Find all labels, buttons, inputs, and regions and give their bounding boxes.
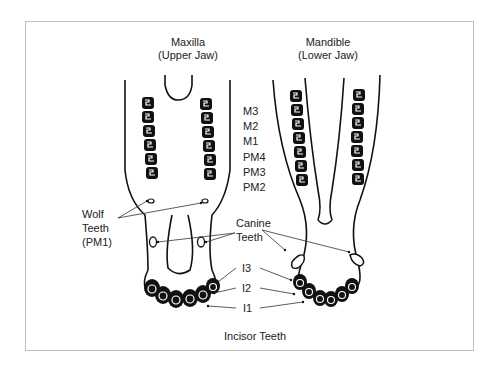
maxilla-title: Maxilla bbox=[148, 36, 228, 49]
tooth-label-pm4: PM4 bbox=[243, 150, 266, 165]
tooth-label-m3: M3 bbox=[243, 104, 266, 119]
canine-teeth-line1: Canine bbox=[236, 216, 271, 230]
maxilla-outline bbox=[125, 75, 230, 290]
incisor-teeth-caption: Incisor Teeth bbox=[224, 330, 286, 343]
mandible-subtitle: (Lower Jaw) bbox=[288, 49, 368, 62]
wolf-teeth-line3: (PM1) bbox=[82, 235, 112, 249]
maxilla-incisors bbox=[144, 278, 220, 308]
tooth-label-m2: M2 bbox=[243, 119, 266, 134]
canine-teeth-label: Canine Teeth bbox=[236, 216, 271, 244]
mandible-label: Mandible (Lower Jaw) bbox=[288, 36, 368, 62]
wolf-teeth-line2: Teeth bbox=[82, 221, 112, 235]
tooth-label-pm2: PM2 bbox=[243, 180, 266, 195]
canine-teeth-line2: Teeth bbox=[236, 230, 271, 244]
incisor-label-i1: I1 bbox=[243, 302, 252, 315]
wolf-teeth-line1: Wolf bbox=[82, 207, 112, 221]
maxilla-subtitle-text: (Upper Jaw) bbox=[148, 49, 228, 62]
mandible-molars-left bbox=[290, 90, 308, 186]
mandible-title: Mandible bbox=[288, 36, 368, 49]
mandible-canines bbox=[292, 254, 364, 268]
incisor-label-i3: I3 bbox=[242, 262, 251, 275]
wolf-teeth bbox=[148, 199, 208, 203]
maxilla-molars-left bbox=[142, 97, 158, 179]
tooth-label-pm3: PM3 bbox=[243, 165, 266, 180]
maxilla-molars-right bbox=[200, 98, 216, 180]
mandible-molars-right bbox=[351, 89, 365, 185]
incisor-label-i2: I2 bbox=[242, 282, 251, 295]
maxilla-label: Maxilla (Lower Jaw) (Upper Jaw) bbox=[148, 36, 228, 62]
tooth-label-m1: M1 bbox=[243, 134, 266, 149]
wolf-teeth-label: Wolf Teeth (PM1) bbox=[82, 207, 112, 249]
cheek-teeth-list: M3 M2 M1 PM4 PM3 PM2 bbox=[243, 104, 266, 195]
